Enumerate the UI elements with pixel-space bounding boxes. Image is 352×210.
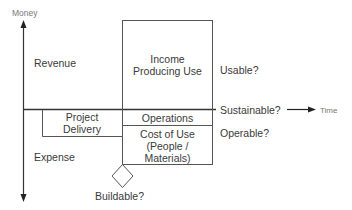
sustainable-label: Sustainable? xyxy=(220,104,281,116)
income-line2: Producing Use xyxy=(122,65,213,77)
buildable-diamond xyxy=(112,165,133,188)
time-arrow-icon xyxy=(308,107,316,113)
arrow-down-icon xyxy=(21,194,27,202)
buildable-label: Buildable? xyxy=(95,190,144,202)
usable-label: Usable? xyxy=(220,64,259,76)
cost-of-use-label: Cost of Use (People / Materials) xyxy=(122,128,213,164)
revenue-label: Revenue xyxy=(34,57,76,69)
cost-line3: Materials) xyxy=(122,152,213,164)
diagram-lines xyxy=(0,0,352,210)
income-producing-use-label: Income Producing Use xyxy=(122,53,213,77)
expense-label: Expense xyxy=(34,151,75,163)
income-line1: Income xyxy=(122,53,213,65)
cost-line1: Cost of Use xyxy=(122,128,213,140)
project-line1: Project xyxy=(42,111,122,123)
arrow-up-icon xyxy=(21,20,27,28)
x-axis-label: Time xyxy=(320,105,337,117)
project-delivery-label: Project Delivery xyxy=(42,111,122,135)
project-line2: Delivery xyxy=(42,123,122,135)
operable-label: Operable? xyxy=(220,127,269,139)
y-axis-label: Money xyxy=(12,7,38,19)
operations-label: Operations xyxy=(122,112,213,124)
cost-line2: (People / xyxy=(122,140,213,152)
